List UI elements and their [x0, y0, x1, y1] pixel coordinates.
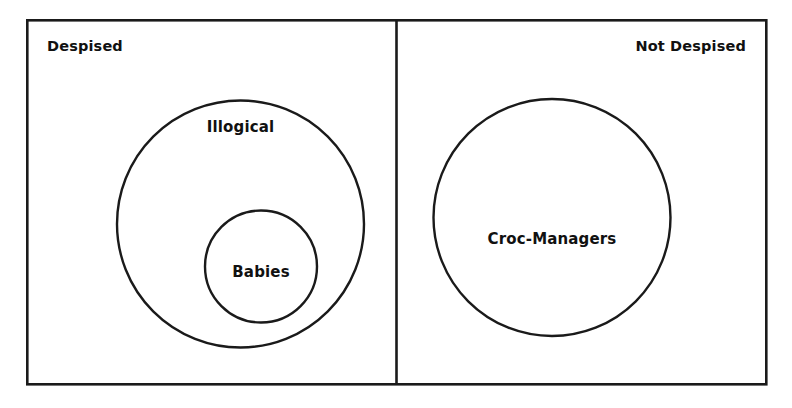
- panel-label-despised: Despised: [47, 38, 123, 54]
- panel-label-not-despised: Not Despised: [635, 38, 746, 54]
- set-label-illogical: Illogical: [207, 118, 275, 136]
- set-label-croc-managers: Croc-Managers: [488, 230, 617, 248]
- euler-diagram: Despised Illogical Babies Not Despised C…: [0, 0, 792, 408]
- diagram-canvas: Despised Illogical Babies Not Despised C…: [0, 0, 792, 408]
- set-label-babies: Babies: [232, 263, 289, 281]
